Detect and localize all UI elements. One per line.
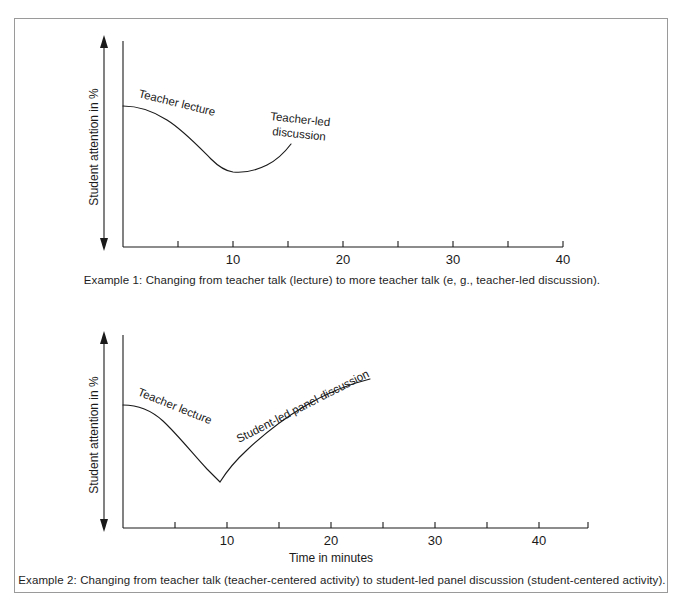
x-tick-label-30-example-2: 30 bbox=[428, 533, 442, 548]
axis-lines-example-1 bbox=[123, 41, 563, 247]
y-axis-arrow bbox=[100, 35, 108, 251]
x-tick-label-30-example-1: 30 bbox=[446, 252, 460, 267]
figure-frame: Student attention in % bbox=[14, 18, 668, 593]
x-tick-label-10-example-2: 10 bbox=[220, 533, 234, 548]
chart-panel-example-2: Student attention in % bbox=[15, 309, 669, 594]
x-tick-label-40-example-2: 40 bbox=[532, 533, 546, 548]
caption-example-2: Example 2: Changing from teacher talk (t… bbox=[15, 574, 669, 586]
figure-root: Student attention in % bbox=[0, 0, 681, 606]
curve-label-teacher-lecture-example-2: Teacher lecture bbox=[136, 386, 213, 427]
axis-lines-example-2 bbox=[123, 335, 588, 528]
x-tick-label-10-example-1: 10 bbox=[226, 252, 240, 267]
x-axis-label-example-2: Time in minutes bbox=[289, 551, 373, 565]
curve-label-student-led-panel-example-2: Student-led panel discussion bbox=[234, 367, 370, 444]
y-axis-label-example-1: Student attention in % bbox=[87, 88, 101, 206]
curve-label-teacher-lecture-example-1: Teacher lecture bbox=[138, 87, 217, 118]
x-tick-label-40-example-1: 40 bbox=[556, 252, 570, 267]
x-ticks-example-2 bbox=[175, 522, 588, 528]
chart-example-2: Student attention in % bbox=[15, 309, 669, 571]
x-ticks-example-1 bbox=[178, 241, 563, 247]
curve-label-discussion-example-1: discussion bbox=[272, 125, 327, 143]
caption-example-1: Example 1: Changing from teacher talk (l… bbox=[15, 274, 669, 286]
y-axis-arrow bbox=[100, 331, 108, 532]
chart-example-1: Student attention in % bbox=[15, 19, 669, 271]
x-tick-label-20-example-1: 20 bbox=[336, 252, 350, 267]
y-axis-label-example-2: Student attention in % bbox=[87, 376, 101, 494]
x-tick-label-20-example-2: 20 bbox=[324, 533, 338, 548]
figure-footer-note bbox=[18, 598, 498, 606]
x-axis-label-example-1: Time in minutes bbox=[301, 270, 385, 271]
chart-panel-example-1: Student attention in % bbox=[15, 19, 669, 309]
